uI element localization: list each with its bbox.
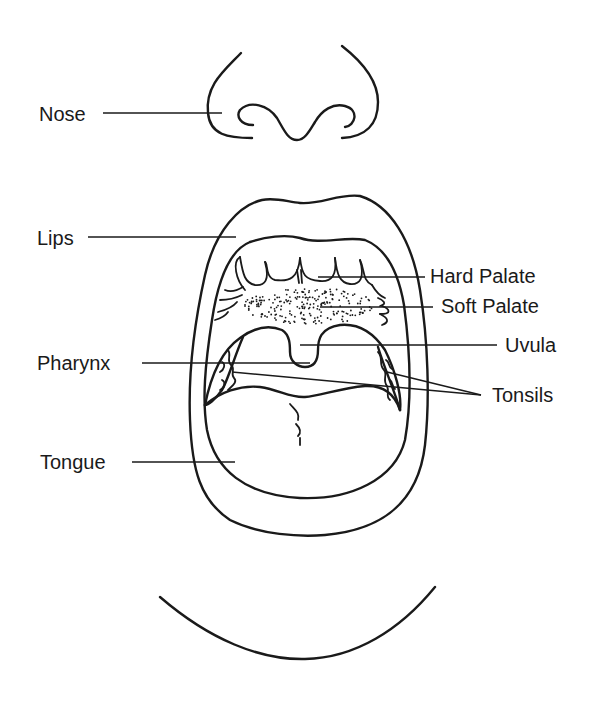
leader-lines [88,113,497,462]
label-hard-palate: Hard Palate [430,265,536,287]
label-tongue: Tongue [40,451,106,473]
tonsils-drawing [220,350,395,400]
mouth-anatomy-diagram: Nose Lips Hard Palate Soft Palate Uvula … [0,0,601,704]
label-lips: Lips [37,227,74,249]
label-tonsils: Tonsils [492,384,553,406]
nose-drawing [208,46,378,140]
label-pharynx: Pharynx [37,352,110,374]
label-soft-palate: Soft Palate [441,295,539,317]
chin-curve [160,587,435,659]
label-nose: Nose [39,103,86,125]
label-uvula: Uvula [505,334,557,356]
